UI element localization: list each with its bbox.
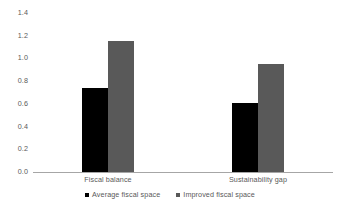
legend-swatch-icon: [176, 193, 180, 197]
y-axis-tick-label: 1.4: [18, 9, 28, 17]
y-axis-tick-label: 0.0: [18, 168, 28, 176]
y-axis-tick-label: 0.8: [18, 77, 28, 85]
bar-average-fiscal-space: [82, 88, 108, 172]
legend-label: Improved fiscal space: [183, 190, 255, 199]
y-axis-tick-label: 0.6: [18, 100, 28, 108]
chart-legend: Average fiscal spaceImproved fiscal spac…: [0, 190, 340, 199]
y-axis-tick-label: 1.0: [18, 54, 28, 62]
legend-label: Average fiscal space: [92, 190, 160, 199]
x-axis-line: [33, 172, 333, 173]
category-label: Fiscal balance: [84, 175, 131, 185]
y-axis-tick-label: 0.2: [18, 145, 28, 153]
y-axis: 1.41.21.00.80.60.40.20.0: [0, 0, 33, 176]
y-axis-tick-label: 1.2: [18, 32, 28, 40]
bar-improved-fiscal-space: [258, 64, 284, 172]
category-label: Sustainability gap: [229, 175, 287, 185]
bar-average-fiscal-space: [232, 103, 258, 172]
legend-swatch-icon: [85, 193, 89, 197]
plot-area: [33, 13, 333, 172]
y-axis-tick-label: 0.4: [18, 123, 28, 131]
bar-chart: 1.41.21.00.80.60.40.20.0 Fiscal balanceS…: [0, 0, 340, 209]
legend-item[interactable]: Improved fiscal space: [176, 190, 255, 199]
legend-item[interactable]: Average fiscal space: [85, 190, 160, 199]
bar-improved-fiscal-space: [108, 41, 134, 172]
category-axis-labels: Fiscal balanceSustainability gap: [33, 175, 333, 187]
